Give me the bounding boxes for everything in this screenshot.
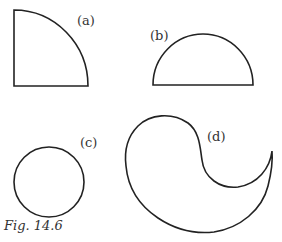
label-c: (c) [80, 135, 97, 150]
shape-c-circle: (c) [14, 135, 97, 217]
shape-b-semicircle: (b) [150, 28, 253, 85]
label-d: (d) [207, 129, 225, 144]
figure-canvas: (a) (b) (c) (d) Fig. 14.6 [0, 0, 282, 242]
shape-a-quarter-circle: (a) [14, 10, 95, 86]
label-b: (b) [150, 28, 168, 43]
figure-caption: Fig. 14.6 [3, 218, 63, 233]
label-a: (a) [77, 13, 95, 28]
shape-d-teardrop: (d) [126, 116, 273, 233]
